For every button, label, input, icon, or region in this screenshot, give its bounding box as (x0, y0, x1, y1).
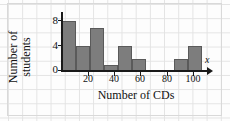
x-tick-label: 60 (128, 74, 152, 84)
x-tick-label: 40 (102, 74, 126, 84)
y-tick-mark (58, 20, 62, 21)
histogram-bar (90, 28, 104, 71)
histogram-bar (188, 46, 202, 71)
x-tick-label: 100 (181, 74, 205, 84)
x-tick-label: 20 (76, 74, 100, 84)
y-tick-label: 4 (44, 40, 58, 51)
x-tick-label: 80 (155, 74, 179, 84)
y-axis-title: Number of students (7, 15, 33, 99)
x-axis-title: Number of CDs (62, 88, 210, 103)
histogram-bar (118, 46, 132, 71)
histogram-figure: 0 4 8 20 40 60 80 100 x Number of CDs Nu… (0, 0, 230, 121)
histogram-bar (62, 21, 76, 71)
x-axis-variable-symbol: x (205, 54, 209, 65)
y-tick-mark (58, 70, 62, 71)
y-tick-mark (58, 45, 62, 46)
y-tick-label: 0 (44, 64, 58, 75)
x-axis-arrowhead (207, 67, 213, 75)
histogram-bar (76, 46, 90, 71)
y-tick-label: 8 (44, 15, 58, 26)
x-axis-line (61, 70, 209, 72)
